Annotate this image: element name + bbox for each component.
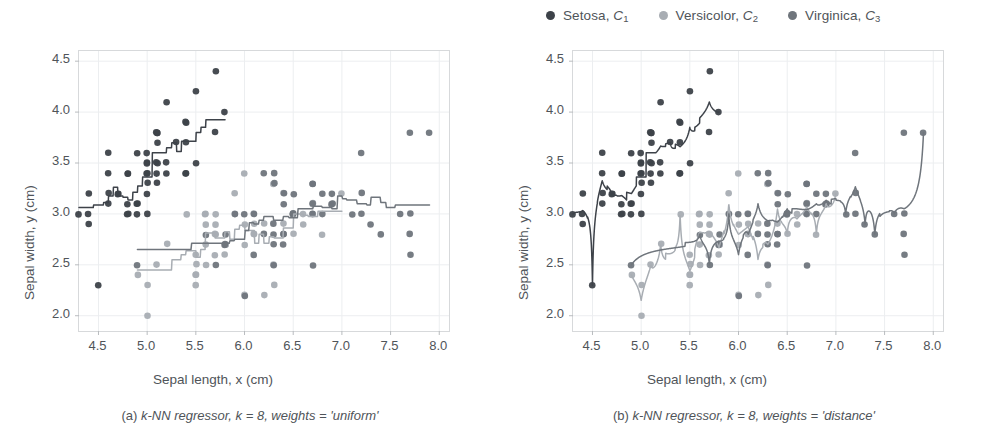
x-tick-label: 7.5 bbox=[370, 338, 410, 353]
y-tick-label: 4.0 bbox=[526, 102, 564, 117]
x-tick-label: 8.0 bbox=[912, 338, 952, 353]
panel-a: Sepal width, y (cm) Sepal length, x (cm)… bbox=[0, 0, 494, 447]
x-tick-label: 5.0 bbox=[620, 338, 660, 353]
y-tick-label: 3.5 bbox=[32, 153, 70, 168]
y-tick-label: 4.0 bbox=[32, 102, 70, 117]
y-tick-label: 4.5 bbox=[32, 51, 70, 66]
x-tick-label: 7.5 bbox=[864, 338, 904, 353]
x-tick-label: 5.0 bbox=[126, 338, 166, 353]
x-tick-label: 6.0 bbox=[718, 338, 758, 353]
panel-a-caption: (a) k-NN regressor, k = 8, weights = 'un… bbox=[40, 408, 460, 423]
x-tick-label: 7.0 bbox=[815, 338, 855, 353]
x-tick-label: 6.5 bbox=[766, 338, 806, 353]
panel-a-x-axis-label: Sepal length, x (cm) bbox=[153, 372, 273, 387]
panel-b-plot-area[interactable] bbox=[572, 50, 944, 332]
x-tick-label: 7.0 bbox=[321, 338, 361, 353]
y-tick-label: 2.0 bbox=[526, 306, 564, 321]
x-tick-label: 4.5 bbox=[77, 338, 117, 353]
x-tick-label: 8.0 bbox=[418, 338, 458, 353]
panel-b-x-axis-label: Sepal length, x (cm) bbox=[647, 372, 767, 387]
panel-b-caption: (b) k-NN regressor, k = 8, weights = 'di… bbox=[524, 408, 964, 423]
x-tick-label: 6.0 bbox=[224, 338, 264, 353]
y-tick-label: 4.5 bbox=[526, 51, 564, 66]
panel-b-y-axis-label: Sepal width, y (cm) bbox=[516, 185, 531, 300]
panel-a-y-axis-label: Sepal width, y (cm) bbox=[22, 185, 37, 300]
panel-a-plot-area[interactable] bbox=[78, 50, 450, 332]
x-tick-label: 5.5 bbox=[669, 338, 709, 353]
panel-b-canvas bbox=[573, 51, 943, 331]
x-tick-label: 5.5 bbox=[175, 338, 215, 353]
panel-b: Sepal width, y (cm) Sepal length, x (cm)… bbox=[494, 0, 988, 447]
y-tick-label: 2.5 bbox=[32, 255, 70, 270]
y-tick-label: 3.0 bbox=[526, 204, 564, 219]
y-tick-label: 3.0 bbox=[32, 204, 70, 219]
y-tick-label: 3.5 bbox=[526, 153, 564, 168]
panel-a-canvas bbox=[79, 51, 449, 331]
x-tick-label: 4.5 bbox=[571, 338, 611, 353]
figure-root: Setosa, C1 Versicolor, C2 Virginica, C3 … bbox=[0, 0, 988, 447]
y-tick-label: 2.5 bbox=[526, 255, 564, 270]
y-tick-label: 2.0 bbox=[32, 306, 70, 321]
x-tick-label: 6.5 bbox=[272, 338, 312, 353]
